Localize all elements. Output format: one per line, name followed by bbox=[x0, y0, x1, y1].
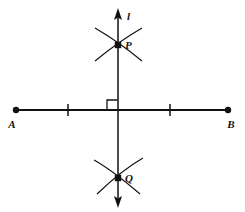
point-a-dot bbox=[13, 107, 19, 113]
line-l-label: l bbox=[127, 10, 131, 22]
point-q-dot bbox=[115, 175, 121, 181]
geometry-canvas: A B P Q l bbox=[0, 0, 245, 212]
point-a-label: A bbox=[7, 118, 15, 130]
point-p-dot bbox=[115, 42, 121, 48]
point-p-label: P bbox=[125, 39, 132, 51]
right-angle-marker bbox=[107, 100, 118, 110]
point-q-label: Q bbox=[125, 172, 133, 184]
point-b-dot bbox=[225, 107, 231, 113]
point-b-label: B bbox=[226, 118, 234, 130]
geometry-figure: A B P Q l bbox=[0, 0, 245, 212]
